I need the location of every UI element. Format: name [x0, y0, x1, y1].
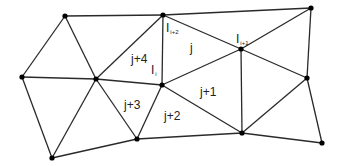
- mesh-edge: [52, 79, 96, 158]
- element-label: j+3: [123, 98, 141, 112]
- mesh-edge: [242, 78, 307, 133]
- mesh-edge: [241, 49, 307, 78]
- mesh-edge: [22, 16, 65, 77]
- element-label: j+4: [130, 52, 148, 66]
- mesh-edge: [96, 79, 162, 85]
- mesh-node: [159, 82, 164, 87]
- mesh-node: [49, 155, 54, 160]
- mesh-node: [93, 76, 98, 81]
- mesh-edge: [307, 8, 311, 78]
- mesh-node: [19, 74, 24, 79]
- mesh-edge: [307, 78, 322, 143]
- mesh-edge: [52, 139, 137, 158]
- mesh-node: [62, 13, 67, 18]
- mesh-node: [134, 136, 139, 141]
- mesh-node: [304, 75, 309, 80]
- element-label: j+1: [199, 85, 217, 99]
- mesh-node: [238, 46, 243, 51]
- node-label: Ii+1: [236, 32, 249, 46]
- mesh-edge: [163, 8, 311, 15]
- mesh-edge: [137, 133, 242, 139]
- mesh-edge: [65, 15, 163, 16]
- mesh-edge: [241, 49, 242, 133]
- mesh-node: [160, 12, 165, 17]
- element-label: j: [189, 41, 193, 55]
- node-label: Ii: [151, 63, 157, 77]
- element-label: j+2: [163, 109, 181, 123]
- triangular-mesh: Ii+2IiIi+1jj+4j+1j+3j+2: [0, 0, 337, 166]
- mesh-edge: [137, 85, 162, 139]
- mesh-edge: [22, 77, 52, 158]
- mesh-edge: [22, 77, 96, 79]
- mesh-node: [319, 140, 324, 145]
- mesh-edge: [242, 133, 322, 143]
- mesh-edge: [241, 8, 311, 49]
- mesh-diagram: Ii+2IiIi+1jj+4j+1j+3j+2: [0, 0, 337, 166]
- mesh-node: [239, 130, 244, 135]
- mesh-edge: [162, 49, 241, 85]
- mesh-edge: [162, 15, 163, 85]
- mesh-edge: [65, 16, 96, 79]
- mesh-labels: Ii+2IiIi+1jj+4j+1j+3j+2: [123, 21, 249, 123]
- node-label: Ii+2: [166, 21, 179, 35]
- mesh-node: [308, 5, 313, 10]
